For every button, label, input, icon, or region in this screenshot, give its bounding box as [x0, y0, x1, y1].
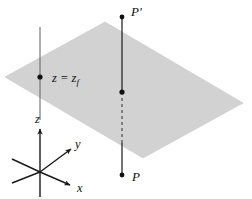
dot-p: [120, 173, 125, 178]
dot-plane-crossing: [119, 89, 124, 94]
axis-y-positive: [40, 149, 71, 172]
figure-container: z = zf P' P z y x: [0, 0, 252, 199]
label-axis-x: x: [76, 181, 83, 195]
dot-p-prime: [120, 15, 125, 20]
axis-y-negative: [12, 172, 40, 183]
label-axis-y: y: [73, 137, 81, 151]
axis-x-positive: [40, 172, 70, 185]
axis-x-negative: [12, 159, 40, 172]
label-point-p-prime: P': [130, 4, 142, 19]
figure-canvas: z = zf P' P z y x: [0, 0, 252, 199]
label-plane-level: z = zf: [51, 71, 80, 87]
dot-z-equals-zf: [37, 74, 42, 79]
label-point-p: P: [131, 169, 140, 184]
label-axis-z: z: [34, 112, 40, 126]
label-plane-level-text: z = z: [51, 71, 77, 85]
